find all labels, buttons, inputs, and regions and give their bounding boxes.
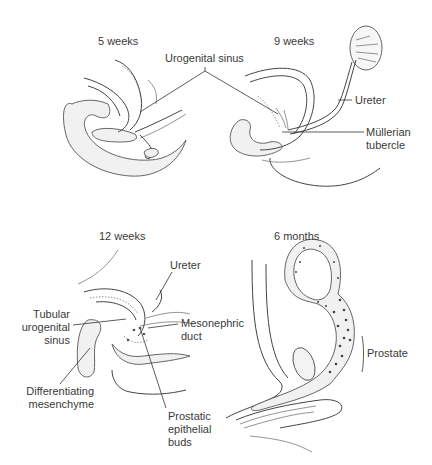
panel-title-6-months: 6 months [274,230,319,243]
prostate-bracket [362,336,364,372]
panel-5-weeks-drawing [64,60,186,176]
label-mesonephric-duct: Mesonephric duct [181,317,244,343]
label-prostatic-epithelial-buds: Prostatic epithelial buds [168,410,211,449]
label-ureter-9-weeks: Ureter [355,94,386,107]
label-differentiating-mesenchyme: Differentiating mesenchyme [18,385,94,411]
label-prostate: Prostate [367,347,408,360]
label-urogenital-sinus: Urogenital sinus [165,52,244,65]
label-ureter-12-weeks: Ureter [170,259,201,272]
panel-title-12-weeks: 12 weeks [99,230,145,243]
label-mullerian-tubercle: Müllerian tubercle [366,126,411,152]
panel-title-9-weeks: 9 weeks [274,35,314,48]
panel-title-5-weeks: 5 weeks [98,35,138,48]
panel-6-months-drawing [226,239,364,452]
label-tubular-urogenital-sinus: Tubular urogenital sinus [20,308,70,347]
